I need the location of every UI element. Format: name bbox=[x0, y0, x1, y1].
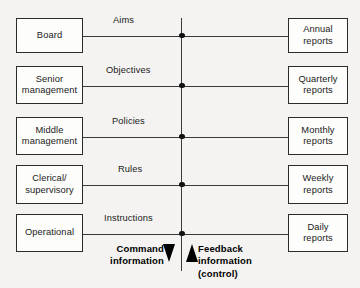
junction-dot-4 bbox=[179, 182, 184, 187]
legend-feedback-line-3: (control) bbox=[198, 268, 252, 280]
junction-dot-3 bbox=[179, 134, 184, 139]
junction-dot-1 bbox=[179, 33, 184, 38]
hierarchy-diagram: Board Aims Annual reports Senior managem… bbox=[0, 0, 360, 288]
connector-left-2 bbox=[83, 86, 182, 87]
legend-command-line-2: information bbox=[110, 255, 164, 267]
connector-right-4 bbox=[182, 185, 288, 186]
legend-feedback-line-1: Feedback bbox=[198, 243, 252, 255]
connector-right-2 bbox=[182, 86, 288, 87]
legend-command-information: Command information bbox=[110, 243, 164, 268]
node-senior-management-line-1: Senior bbox=[36, 74, 63, 85]
node-monthly-reports-line-2: reports bbox=[303, 136, 333, 147]
node-middle-management[interactable]: Middle management bbox=[16, 117, 83, 155]
node-annual-reports-line-1: Annual bbox=[303, 24, 333, 35]
node-annual-reports-line-2: reports bbox=[303, 36, 333, 47]
node-annual-reports[interactable]: Annual reports bbox=[288, 18, 348, 53]
node-monthly-reports-line-1: Monthly bbox=[301, 125, 334, 136]
node-weekly-reports-line-1: Weekly bbox=[303, 173, 334, 184]
connector-right-1 bbox=[182, 36, 288, 37]
edge-label-rules: Rules bbox=[118, 164, 142, 174]
node-senior-management-line-2: management bbox=[22, 85, 77, 96]
node-clerical-supervisory-line-2: supervisory bbox=[25, 185, 74, 196]
node-clerical-supervisory-line-1: Clerical/ bbox=[32, 173, 66, 184]
connector-left-5 bbox=[83, 234, 182, 235]
edge-label-policies: Policies bbox=[112, 116, 145, 126]
node-senior-management[interactable]: Senior management bbox=[16, 66, 83, 104]
node-daily-reports[interactable]: Daily reports bbox=[288, 214, 348, 252]
node-middle-management-line-2: management bbox=[22, 136, 77, 147]
connector-right-3 bbox=[182, 137, 288, 138]
node-weekly-reports[interactable]: Weekly reports bbox=[288, 165, 348, 204]
connector-left-4 bbox=[83, 185, 182, 186]
edge-label-objectives: Objectives bbox=[106, 65, 150, 75]
connector-right-5 bbox=[182, 234, 288, 235]
node-board[interactable]: Board bbox=[16, 18, 83, 53]
node-quarterly-reports-line-2: reports bbox=[303, 85, 333, 96]
node-daily-reports-line-2: reports bbox=[303, 233, 333, 244]
legend-command-line-1: Command bbox=[110, 243, 164, 255]
legend-feedback-information: Feedback information (control) bbox=[198, 243, 252, 280]
node-weekly-reports-line-2: reports bbox=[303, 185, 333, 196]
edge-label-aims: Aims bbox=[113, 15, 134, 25]
connector-left-1 bbox=[83, 36, 182, 37]
legend-feedback-line-2: information bbox=[198, 255, 252, 267]
node-middle-management-line-1: Middle bbox=[36, 125, 64, 136]
arrow-down-icon bbox=[163, 244, 175, 262]
node-operational-line-1: Operational bbox=[25, 227, 74, 238]
node-clerical-supervisory[interactable]: Clerical/ supervisory bbox=[16, 165, 83, 204]
edge-label-instructions: Instructions bbox=[104, 213, 153, 223]
node-quarterly-reports-line-1: Quarterly bbox=[298, 74, 337, 85]
arrow-up-icon bbox=[186, 244, 198, 262]
node-quarterly-reports[interactable]: Quarterly reports bbox=[288, 66, 348, 104]
node-monthly-reports[interactable]: Monthly reports bbox=[288, 117, 348, 155]
junction-dot-5 bbox=[179, 231, 184, 236]
node-operational[interactable]: Operational bbox=[16, 214, 83, 252]
connector-left-3 bbox=[83, 137, 182, 138]
node-board-line-1: Board bbox=[37, 30, 62, 41]
junction-dot-2 bbox=[179, 83, 184, 88]
node-daily-reports-line-1: Daily bbox=[307, 222, 328, 233]
